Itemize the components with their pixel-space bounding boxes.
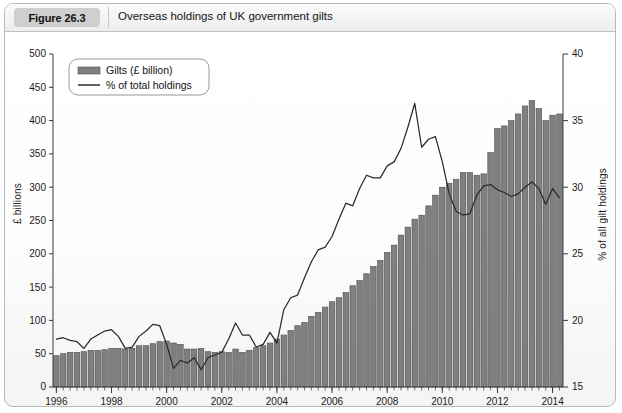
bar xyxy=(460,173,466,387)
figure-number-badge: Figure 26.3 xyxy=(14,8,100,27)
bar xyxy=(357,280,363,387)
x-tick-label: 1996 xyxy=(45,396,68,407)
figure-title: Overseas holdings of UK government gilts xyxy=(118,10,333,22)
legend-label: Gilts (£ billion) xyxy=(106,64,173,76)
bar xyxy=(302,322,308,387)
x-axis-minor-ticks xyxy=(56,387,559,391)
y-tick-label-left: 50 xyxy=(35,348,47,359)
bar xyxy=(123,349,129,387)
bar xyxy=(384,252,390,387)
bar xyxy=(316,312,322,387)
bar xyxy=(143,346,149,387)
bar xyxy=(95,350,101,387)
bar xyxy=(240,352,246,387)
bar xyxy=(274,339,280,387)
x-tick-label: 2012 xyxy=(486,396,509,407)
bar xyxy=(267,343,273,387)
bar xyxy=(405,227,411,387)
bar xyxy=(446,183,452,387)
chart-area: £ billions % of all gilt holdings 050100… xyxy=(5,33,616,407)
bar xyxy=(391,245,397,387)
x-tick-label: 2010 xyxy=(431,396,454,407)
bar xyxy=(364,274,370,387)
bar xyxy=(88,350,94,387)
bar xyxy=(260,346,266,387)
bar xyxy=(247,350,253,387)
bar xyxy=(129,348,135,387)
bar xyxy=(467,173,473,387)
bar xyxy=(219,352,225,387)
bar xyxy=(495,129,501,387)
bar xyxy=(178,344,184,387)
bar xyxy=(557,114,563,387)
x-tick-label: 2004 xyxy=(266,396,289,407)
bar xyxy=(329,302,335,387)
y-tick-label-right: 40 xyxy=(572,48,584,59)
bar xyxy=(536,109,542,387)
bar xyxy=(61,354,67,387)
bar xyxy=(212,352,218,387)
bar xyxy=(54,356,60,387)
bar xyxy=(412,219,418,387)
bar xyxy=(350,286,356,387)
bar xyxy=(419,215,425,387)
y-tick-label-right: 30 xyxy=(572,182,584,193)
bar xyxy=(529,101,535,387)
bar xyxy=(109,348,115,387)
bar xyxy=(515,114,521,387)
x-tick-label: 2000 xyxy=(156,396,179,407)
bar xyxy=(508,121,514,387)
bar xyxy=(74,352,80,387)
y-tick-label-left: 0 xyxy=(40,381,46,392)
bar xyxy=(522,106,528,387)
y-tick-label-left: 400 xyxy=(29,115,46,126)
bar xyxy=(474,175,480,387)
x-tick-label: 2002 xyxy=(211,396,234,407)
y-tick-label-left: 500 xyxy=(29,48,46,59)
bar xyxy=(185,349,191,387)
bar xyxy=(191,349,197,387)
bar xyxy=(67,352,73,387)
x-tick-label: 2014 xyxy=(541,396,564,407)
bar xyxy=(378,260,384,387)
bar xyxy=(233,349,239,387)
bar xyxy=(81,352,87,387)
y-tick-label-right: 20 xyxy=(572,315,584,326)
figure-header: Figure 26.3 Overseas holdings of UK gove… xyxy=(5,4,615,32)
bar xyxy=(164,341,170,387)
header-divider xyxy=(108,7,109,28)
bar xyxy=(481,174,487,387)
y-tick-label-left: 250 xyxy=(29,215,46,226)
bar xyxy=(433,195,439,387)
figure-card: Figure 26.3 Overseas holdings of UK gove… xyxy=(4,3,616,407)
bar xyxy=(295,326,301,387)
bar xyxy=(253,348,259,387)
bar xyxy=(150,344,156,387)
bar xyxy=(336,298,342,387)
y-tick-label-left: 100 xyxy=(29,315,46,326)
y-axis-label-right: % of all gilt holdings xyxy=(597,168,608,261)
bar xyxy=(371,266,377,387)
bar xyxy=(550,115,556,387)
bar xyxy=(136,346,142,387)
y-axis-label-left: £ billions xyxy=(12,183,23,224)
y-tick-label-left: 150 xyxy=(29,282,46,293)
gilts-holdings-chart: 0501001502002503003504004505001520253035… xyxy=(5,33,616,407)
y-tick-label-left: 200 xyxy=(29,248,46,259)
bar xyxy=(309,316,315,387)
x-tick-label: 2006 xyxy=(321,396,344,407)
bar xyxy=(198,348,204,387)
y-tick-label-right: 15 xyxy=(572,381,584,392)
bar-swatch-icon xyxy=(78,67,100,74)
bar-series xyxy=(54,101,563,387)
bar xyxy=(102,350,108,387)
x-tick-label: 1998 xyxy=(100,396,123,407)
bar xyxy=(322,307,328,387)
chart-legend: Gilts (£ billion)% of total holdings xyxy=(69,59,209,95)
y-tick-label-right: 35 xyxy=(572,115,584,126)
bar xyxy=(171,343,177,387)
bar xyxy=(226,352,232,387)
bar xyxy=(440,187,446,387)
bar xyxy=(543,121,549,387)
bar xyxy=(343,292,349,387)
